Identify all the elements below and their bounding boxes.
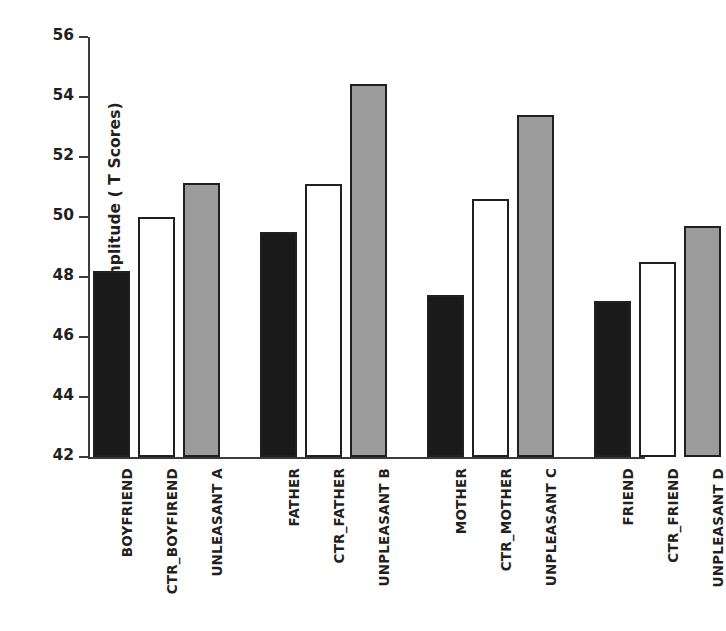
bar [517, 115, 554, 457]
y-axis-line [88, 37, 90, 457]
bar [350, 84, 387, 458]
y-tick-label: 50 [52, 206, 74, 224]
x-tick-label: UNPLEASANT D [710, 468, 726, 631]
y-tick-mark [79, 276, 88, 278]
y-tick-label: 52 [52, 146, 74, 164]
y-tick-mark [79, 336, 88, 338]
plot-area: 5654525048464442 [88, 37, 645, 457]
x-tick-label: UNPLEASANT C [543, 468, 559, 631]
x-tick-label: CTR_BOYFIREND [164, 468, 180, 631]
y-tick-mark [79, 216, 88, 218]
y-tick-label: 48 [52, 266, 74, 284]
bar [93, 271, 130, 457]
bar [305, 184, 342, 457]
x-tick-label: FATHER [286, 468, 302, 631]
y-tick-label: 42 [52, 446, 74, 464]
y-tick-mark [79, 396, 88, 398]
y-tick-mark [79, 456, 88, 458]
bar [684, 226, 721, 457]
x-tick-label: CTR_FATHER [331, 468, 347, 631]
x-tick-label: CTR_FRIEND [665, 468, 681, 631]
x-tick-label: MOTHER [453, 468, 469, 631]
y-tick-mark [79, 156, 88, 158]
bar [260, 232, 297, 457]
bar [427, 295, 464, 457]
y-tick-label: 46 [52, 326, 74, 344]
bar [639, 262, 676, 457]
bar [594, 301, 631, 457]
x-axis-line [88, 457, 645, 459]
x-tick-label: CTR_MOTHER [498, 468, 514, 631]
x-tick-label: BOYFRIEND [119, 468, 135, 631]
x-tick-label: FRIEND [620, 468, 636, 631]
bar [138, 217, 175, 457]
x-tick-label: UNLEASANT A [209, 468, 225, 631]
y-tick-label: 54 [52, 86, 74, 104]
y-tick-label: 44 [52, 386, 74, 404]
y-tick-mark [79, 36, 88, 38]
y-tick-label: 56 [52, 26, 74, 44]
bar [183, 183, 220, 458]
bar [472, 199, 509, 457]
x-tick-label: UNPLEASANT B [376, 468, 392, 631]
y-tick-mark [79, 96, 88, 98]
